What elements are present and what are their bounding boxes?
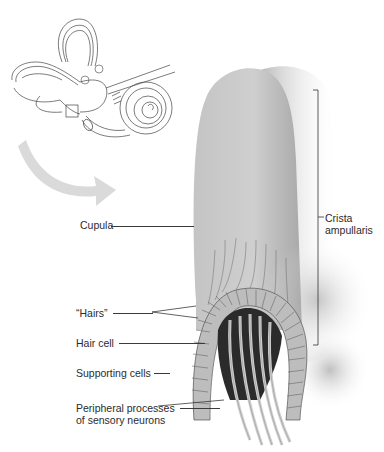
label-supporting-cells: Supporting cells <box>76 367 151 379</box>
leader-hairs <box>113 313 153 314</box>
label-peripheral-line2: of sensory neurons <box>76 414 165 426</box>
leader-peripheral <box>180 408 220 409</box>
leader-hair-cell <box>119 343 205 344</box>
label-peripheral-line1: Peripheral processes <box>76 402 175 414</box>
leader-cupula <box>111 226 194 227</box>
label-crista-line1: Crista <box>325 212 352 224</box>
curved-arrow <box>18 140 116 206</box>
label-hair-cell: Hair cell <box>76 337 114 349</box>
label-cupula: Cupula <box>80 219 113 231</box>
label-crista-line2: ampullaris <box>325 224 373 236</box>
leader-supporting-cells <box>154 373 170 374</box>
inner-ear-inset <box>12 19 175 137</box>
label-hairs: “Hairs” <box>76 307 108 319</box>
